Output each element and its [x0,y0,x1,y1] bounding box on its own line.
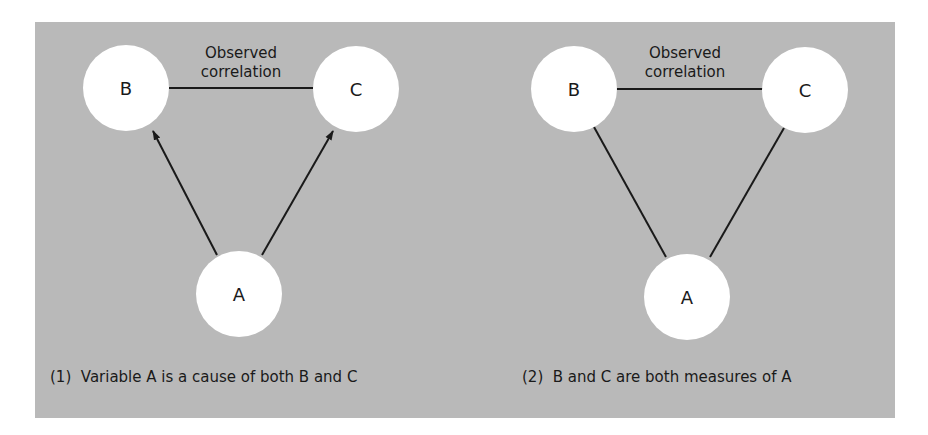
correlation-label-line2: correlation [201,63,282,81]
node-a-label: A [681,287,694,308]
arrow-a-to-c [262,131,333,255]
diagram-2: B C A Observed correlation (2) B and C a… [522,44,848,386]
node-a-label: A [233,284,246,305]
caption-1: (1) Variable A is a cause of both B and … [50,368,357,386]
node-c-label: C [799,80,812,101]
line-a-to-b [594,127,666,257]
node-c-label: C [350,79,363,100]
line-a-to-c [710,128,784,257]
causal-diagrams: B C A Observed correlation (1) Variable … [0,0,928,435]
node-b-label: B [120,78,132,99]
diagram-1: B C A Observed correlation (1) Variable … [50,44,399,386]
correlation-label-line1: Observed [649,44,721,62]
correlation-label-line1: Observed [205,44,277,62]
node-b-label: B [568,79,580,100]
arrow-a-to-b [153,131,217,255]
correlation-label-line2: correlation [645,63,726,81]
caption-2: (2) B and C are both measures of A [522,368,792,386]
